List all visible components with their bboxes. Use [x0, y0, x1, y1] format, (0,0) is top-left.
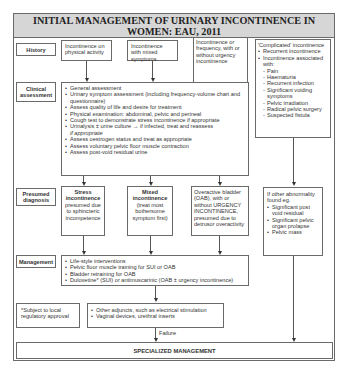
- specialized-management-box: SPECIALIZED MANAGEMENT: [16, 342, 333, 359]
- flowchart-title: INITIAL MANAGEMENT OF URINARY INCONTINEN…: [13, 13, 335, 38]
- diagnosis-oab-box: Overactive bladder (OAB), with or withou…: [191, 186, 249, 236]
- specialized-management-text: SPECIALIZED MANAGEMENT: [133, 348, 215, 354]
- other-abnormality-item: Significant pelvic organ prolapse: [267, 217, 319, 230]
- other-abnormality-box: If other abnormality found eg. Significa…: [263, 187, 323, 256]
- diagnosis-mixed-box: Mixed incontinence (treat most bothersom…: [127, 186, 173, 236]
- history-stress-text: Incontinence on physical activity: [65, 43, 105, 55]
- complicated-subitem: Suspected fistula: [263, 112, 328, 118]
- history-urgency-text: Incontinence or frequency, with or witho…: [196, 39, 240, 64]
- assessment-item: Urinary symptom assessment (including fr…: [65, 91, 245, 104]
- row-label-history: History: [16, 43, 56, 56]
- diagnosis-label-line2: diagnosis: [17, 197, 55, 203]
- title-line-1: INITIAL MANAGEMENT OF URINARY INCONTINEN…: [14, 15, 334, 26]
- row-label-diagnosis: Presumed diagnosis: [16, 188, 56, 206]
- history-urgency-box: Incontinence or frequency, with or witho…: [193, 37, 248, 83]
- management-box: Life-style interventions Pelvic floor mu…: [61, 255, 249, 286]
- diagnosis-oab-text: Overactive bladder (OAB), with or withou…: [194, 189, 244, 227]
- history-mixed-text: Incontinence with mixed symptoms: [131, 43, 163, 62]
- connector-line: [155, 328, 156, 338]
- diagnosis-mixed-detail: (treat most bothersome symptom first): [129, 202, 171, 221]
- adjuncts-box: Other adjuncts, such as electrical stimu…: [87, 303, 224, 328]
- diagnosis-stress-title: Stress incontinence: [63, 189, 103, 202]
- clinical-label-line2: assessment: [17, 92, 55, 98]
- complicated-incontinence-box: 'Complicated' incontinence Recurrent inc…: [255, 39, 331, 138]
- connector-line: [219, 236, 220, 251]
- arrow-down-icon: [292, 182, 296, 186]
- urinalysis-text: Urinalysis ± urine culture → if infected…: [70, 123, 213, 129]
- arrow-down-icon: [154, 298, 158, 302]
- row-label-clinical: Clinical assessment: [16, 82, 56, 102]
- other-abnormality-item: Significant post void residual: [267, 204, 319, 217]
- management-label-text: Management: [19, 259, 53, 265]
- connector-line: [152, 61, 153, 78]
- history-stress-box: Incontinence on physical activity: [61, 40, 112, 61]
- row-label-management: Management: [16, 255, 56, 268]
- clinical-assessment-box: General assessment Urinary symptom asses…: [61, 82, 249, 176]
- connector-line: [293, 138, 294, 183]
- footnote-text: *Subject to local regulatory approval: [21, 307, 69, 319]
- urinalysis-suffix: if appropriate: [70, 130, 103, 136]
- complicated-item: Incontinence associated with:: [258, 55, 328, 68]
- assessment-item-urinalysis: Urinalysis ± urine culture → if infected…: [65, 123, 245, 136]
- connector-line: [150, 236, 151, 251]
- other-abnormality-heading: If other abnormality found eg.: [267, 191, 319, 204]
- complicated-subitem: Significant voiding symptoms: [263, 87, 328, 100]
- management-item: Duloxetine* (SUI) or antimuscarinic (OAB…: [65, 277, 245, 283]
- connector-line: [83, 236, 84, 251]
- diagnosis-stress-detail: presumed due to sphincteric incompetence: [63, 202, 103, 221]
- adjunct-item: Vaginal devices, urethral inserts: [91, 313, 220, 319]
- history-label-text: History: [26, 47, 45, 53]
- assessment-item: Assess post-void residual urine: [65, 149, 245, 155]
- failure-label: Failure: [159, 330, 176, 336]
- connector-line: [86, 61, 87, 78]
- diagnosis-mixed-title: Mixed incontinence: [129, 189, 171, 202]
- connector-line: [293, 256, 294, 338]
- history-mixed-box: Incontinence with mixed symptoms: [127, 40, 178, 61]
- title-line-2: WOMEN: EAU, 2011: [14, 26, 334, 37]
- diagnosis-stress-box: Stress incontinence presumed due to sphi…: [61, 186, 105, 236]
- other-abnormality-item: Pelvic mass: [267, 229, 319, 235]
- footnote-box: *Subject to local regulatory approval: [16, 303, 80, 328]
